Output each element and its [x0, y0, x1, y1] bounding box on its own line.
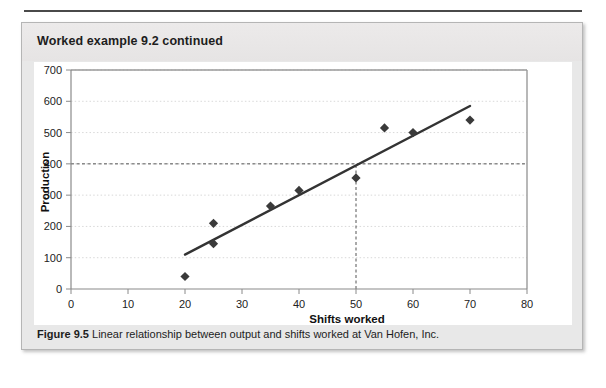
chart-x-ticks: 01020304050607080: [68, 289, 533, 310]
data-point-5: [351, 173, 360, 182]
page-top-rule: [24, 10, 582, 12]
chart-trendline: [185, 106, 470, 255]
figure-caption: Figure 9.5 Linear relationship between o…: [37, 328, 439, 340]
figure-caption-body: Linear relationship between output and s…: [92, 328, 439, 340]
data-point-0: [180, 272, 189, 281]
figure-card: Worked example 9.2 continued 01020304050…: [21, 22, 583, 350]
data-point-8: [465, 115, 474, 124]
x-axis-title: Shifts worked: [309, 313, 384, 325]
chart-svg: 01020304050607080 0100200300400500600700…: [34, 62, 572, 327]
y-tick-label-200: 200: [44, 220, 62, 232]
y-tick-label-700: 700: [44, 64, 62, 76]
figure-caption-label: Figure 9.5: [37, 328, 89, 340]
scatter-chart: 01020304050607080 0100200300400500600700…: [34, 62, 572, 327]
x-tick-label-10: 10: [122, 298, 134, 310]
x-tick-label-0: 0: [68, 298, 74, 310]
figure-caption-bar: Figure 9.5 Linear relationship between o…: [22, 325, 582, 349]
data-point-7: [408, 128, 417, 137]
chart-panel: 01020304050607080 0100200300400500600700…: [34, 62, 572, 327]
worked-example-title: Worked example 9.2 continued: [37, 34, 223, 48]
card-header: Worked example 9.2 continued: [22, 23, 582, 61]
chart-data-markers: [180, 115, 474, 281]
x-tick-label-50: 50: [350, 298, 362, 310]
y-tick-label-600: 600: [44, 95, 62, 107]
y-tick-label-500: 500: [44, 127, 62, 139]
x-tick-label-60: 60: [407, 298, 419, 310]
y-tick-label-100: 100: [44, 252, 62, 264]
chart-plot-frame: [71, 70, 527, 289]
y-axis-title: Production: [39, 152, 51, 213]
x-tick-label-40: 40: [293, 298, 305, 310]
trendline: [185, 106, 470, 255]
x-tick-label-20: 20: [179, 298, 191, 310]
data-point-6: [380, 123, 389, 132]
x-tick-label-70: 70: [464, 298, 476, 310]
y-tick-label-0: 0: [56, 283, 62, 295]
chart-reference-lines: [71, 164, 527, 289]
x-tick-label-30: 30: [236, 298, 248, 310]
x-tick-label-80: 80: [521, 298, 533, 310]
